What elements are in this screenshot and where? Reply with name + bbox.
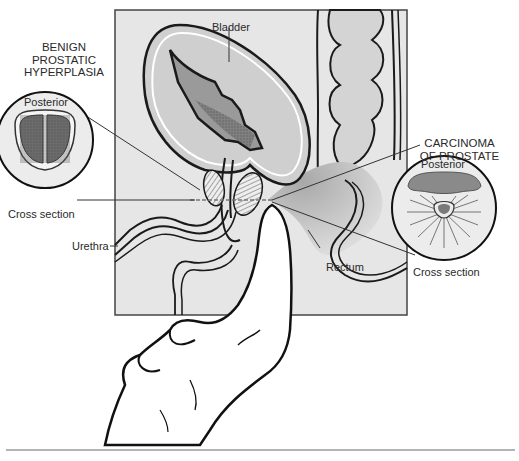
bph-orientation-label: Posterior [24, 96, 68, 108]
carcinoma-caption: Cross section [413, 266, 480, 278]
title-bph: BENIGN PROSTATIC HYPERPLASIA [4, 41, 124, 79]
carcinoma-orientation-label: Posterior [421, 158, 465, 170]
bph-caption: Cross section [8, 208, 75, 220]
label-urethra: Urethra [72, 240, 109, 252]
carcinoma-cross-section [392, 156, 496, 260]
label-rectum: Rectum [326, 261, 364, 273]
label-bladder: Bladder [212, 21, 250, 33]
